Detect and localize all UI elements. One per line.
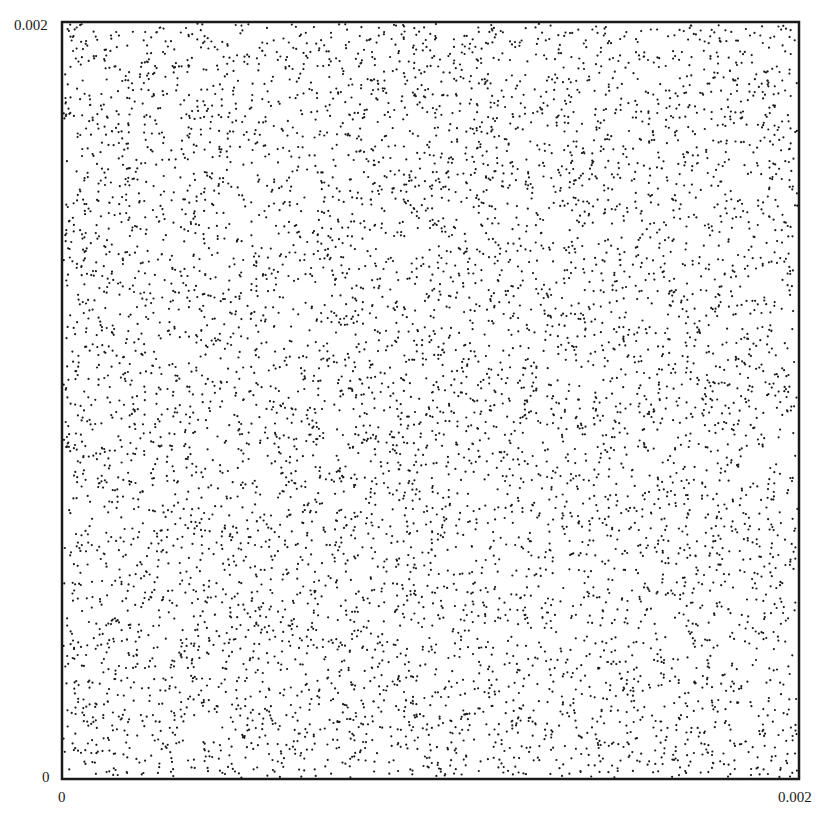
y-axis-max-label: 0.002 — [14, 18, 48, 33]
plot-frame — [62, 22, 799, 779]
x-axis-min-label: 0 — [58, 790, 66, 805]
y-axis-min-label: 0 — [42, 770, 50, 785]
scatter-markers — [62, 23, 798, 779]
scatter-points — [62, 23, 798, 779]
scatter-plot — [0, 0, 832, 818]
x-axis-max-label: 0.002 — [778, 790, 812, 805]
